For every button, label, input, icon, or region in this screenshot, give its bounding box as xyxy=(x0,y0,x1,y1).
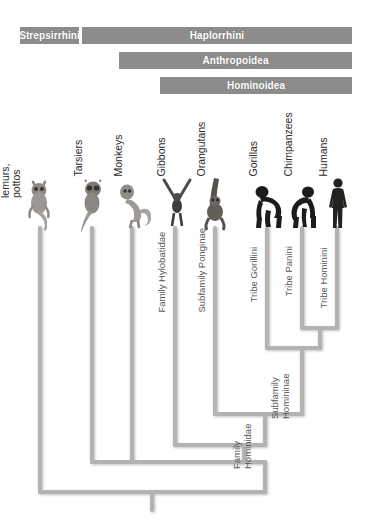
node-label-tribe-hominini: Tribe Hominini xyxy=(319,248,330,309)
tip-label-gibbons: Gibbons xyxy=(156,137,168,176)
cladogram-lines xyxy=(0,0,372,532)
phylogeny-figure: Strepsirrhini Haplorrhini Anthropoidea H… xyxy=(0,0,372,532)
node-label-subfamily-homininae: Subfamily Homininae xyxy=(270,374,291,419)
animal-tarsier xyxy=(76,176,110,232)
tip-label-orangutans: Orangutans xyxy=(196,122,208,177)
animal-galago xyxy=(24,176,58,232)
node-label-family-hylobatidae: Family Hylobatidae xyxy=(157,232,168,313)
node-label-family-hominidae: Family Hominidae xyxy=(232,424,253,469)
animal-gibbon xyxy=(160,176,194,232)
tip-label-tarsiers: Tarsiers xyxy=(73,140,85,177)
animal-gorilla xyxy=(250,180,290,232)
node-label-subfamily-ponginae: Subfamily Ponginae xyxy=(197,228,208,313)
node-label-tribe-gorillini: Tribe Gorillini xyxy=(249,247,260,303)
animal-chimpanzee xyxy=(286,180,322,232)
tip-label-gorillas: Gorillas xyxy=(248,141,260,177)
tip-label-monkeys: Monkeys xyxy=(113,134,125,176)
node-label-tribe-panini: Tribe Panini xyxy=(284,246,295,296)
tip-label-bush-babies: Bush babies, lemurs, pottos xyxy=(0,137,22,198)
tip-label-humans: Humans xyxy=(318,137,330,176)
animal-orangutan xyxy=(200,176,234,232)
animal-human xyxy=(324,176,352,232)
animal-monkey xyxy=(114,176,154,232)
tip-label-chimpanzees: Chimpanzees xyxy=(283,112,295,176)
